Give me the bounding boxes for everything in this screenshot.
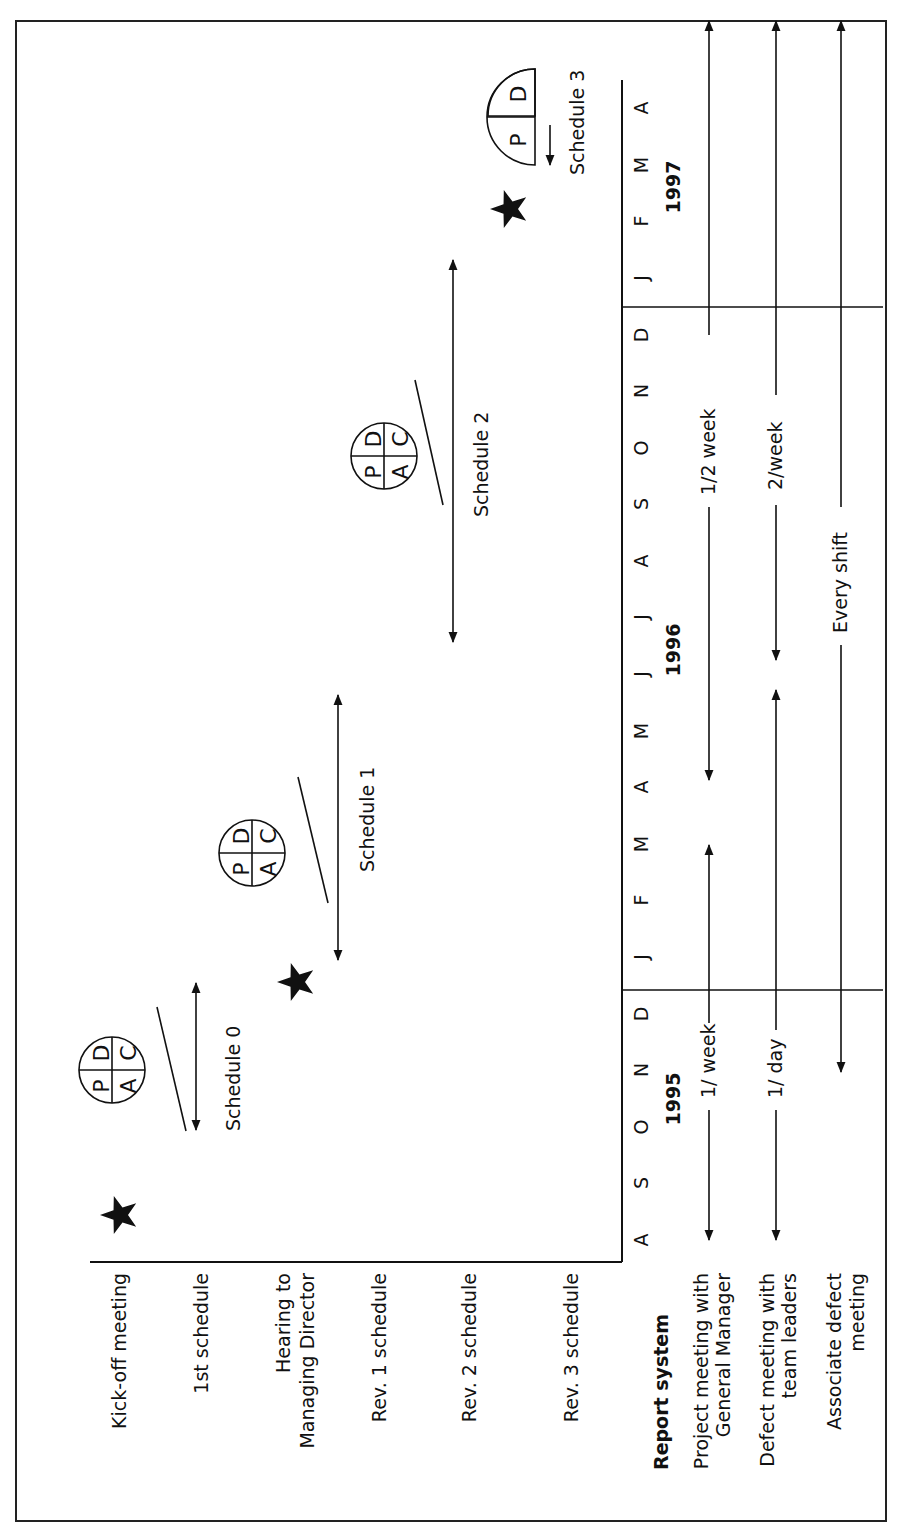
year-labels: 1995 1996 1997 <box>662 161 684 1126</box>
month-label: J <box>630 614 652 621</box>
star-icon-rev3 <box>490 190 526 228</box>
row-label-rev3: Rev. 3 schedule <box>560 1273 582 1422</box>
month-label: D <box>630 1007 652 1022</box>
month-label: J <box>630 954 652 961</box>
dm-second-frequency: 2/week <box>764 422 786 490</box>
pdca-d: D <box>361 431 386 448</box>
star-icon-hearing <box>277 963 313 1001</box>
month-label: F <box>630 216 652 227</box>
report-system-title: Report system <box>650 1314 672 1470</box>
row-label-hearing-2: Managing Director <box>296 1273 318 1449</box>
pdca-p: P <box>506 133 531 146</box>
year-1996: 1996 <box>662 624 684 677</box>
schedule-0: P D A C Schedule 0 <box>79 983 244 1131</box>
row-label-rev1: Rev. 1 schedule <box>368 1273 390 1422</box>
star-icon-kickoff <box>100 1196 136 1234</box>
pdca-c: C <box>388 431 413 446</box>
month-label: S <box>630 498 652 510</box>
schedule-0-label: Schedule 0 <box>222 1026 244 1131</box>
assoc-frequency: Every shift <box>829 532 851 633</box>
pm-gm-label-1: Project meeting with <box>690 1273 712 1469</box>
month-label: N <box>630 384 652 398</box>
report-arrows: 1/ week 1/2 week 1/ day 2/week Every shi… <box>697 21 851 1240</box>
pdca-a: A <box>116 1078 141 1093</box>
pdca-d: D <box>229 828 254 845</box>
schedule-2: P D A C Schedule 2 <box>351 260 492 642</box>
pm-second-frequency: 1/2 week <box>697 408 719 495</box>
pdca-wedge <box>298 777 328 903</box>
month-label: A <box>630 781 652 794</box>
pdca-d: D <box>506 86 531 103</box>
schedule-1-label: Schedule 1 <box>356 767 378 872</box>
month-label: M <box>630 157 652 173</box>
dm-first-frequency: 1/ day <box>764 1039 786 1098</box>
month-label: A <box>630 555 652 568</box>
dm-tl-label-2: team leaders <box>778 1273 800 1398</box>
row-label-first-schedule: 1st schedule <box>190 1273 212 1394</box>
month-label: A <box>630 1234 652 1247</box>
pdca-a: A <box>256 861 281 876</box>
schedule-1: P D A C Schedule 1 <box>219 695 378 960</box>
month-label: O <box>630 1120 652 1135</box>
pdca-c: C <box>256 828 281 843</box>
month-label: O <box>630 441 652 456</box>
month-label: A <box>630 102 652 115</box>
schedule-3-label: Schedule 3 <box>566 70 588 175</box>
month-label: J <box>630 671 652 678</box>
schedule-3: P D Schedule 3 <box>487 69 588 175</box>
row-label-rev2: Rev. 2 schedule <box>458 1273 480 1422</box>
year-1995: 1995 <box>662 1073 684 1126</box>
report-system-labels: Report system Project meeting with Gener… <box>650 1273 868 1470</box>
rotated-diagram: Kick-off meeting 1st schedule Hearing to… <box>0 0 901 1535</box>
month-label: S <box>630 1177 652 1189</box>
pdca-a: A <box>388 464 413 479</box>
row-label-hearing-1: Hearing to <box>272 1273 294 1373</box>
month-label: D <box>630 328 652 343</box>
assoc-label-1: Associate defect <box>823 1273 845 1430</box>
year-1997: 1997 <box>662 161 684 214</box>
dm-tl-label-1: Defect meeting with <box>756 1273 778 1467</box>
pm-gm-label-2: General Manager <box>712 1273 734 1437</box>
row-label-kickoff: Kick-off meeting <box>108 1273 130 1429</box>
pdca-wedge <box>157 1007 186 1131</box>
pdca-d: D <box>89 1045 114 1062</box>
month-label: F <box>630 895 652 906</box>
pm-first-frequency: 1/ week <box>697 1024 719 1098</box>
month-label: J <box>630 275 652 282</box>
month-axis: A S O N D J F M A M J J A S O N D J F M … <box>630 102 652 1247</box>
month-label: M <box>630 723 652 739</box>
pdca-p: P <box>89 1079 114 1092</box>
month-label: M <box>630 836 652 852</box>
month-label: N <box>630 1063 652 1077</box>
pdca-c: C <box>116 1045 141 1060</box>
row-labels: Kick-off meeting 1st schedule Hearing to… <box>108 1273 582 1449</box>
pdca-wedge <box>415 380 443 505</box>
pdca-p: P <box>361 465 386 478</box>
pdca-p: P <box>229 862 254 875</box>
assoc-label-2: meeting <box>846 1273 868 1352</box>
schedule-2-label: Schedule 2 <box>470 412 492 517</box>
